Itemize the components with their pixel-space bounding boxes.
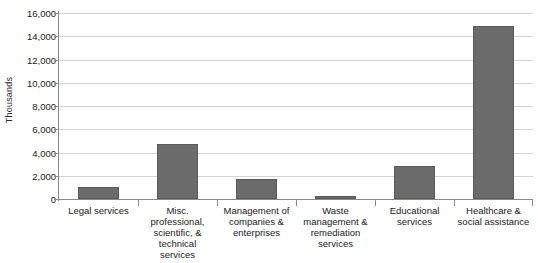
y-tickmark [54, 60, 59, 61]
y-axis-title-text: Thousands [4, 77, 14, 123]
y-tick-label: 4,000 [16, 147, 56, 158]
x-axis-label-line: technical [140, 238, 215, 249]
x-axis-label-line: Waste [298, 205, 373, 216]
y-tick-label: 10,000 [16, 77, 56, 88]
x-axis-label-line: Educational [377, 205, 452, 216]
x-axis-category-label: Misc.professional,scientific, &technical… [140, 205, 215, 260]
bar [78, 187, 119, 199]
x-axis-label-line: social assistance [456, 216, 531, 227]
y-tick-label: 16,000 [16, 8, 56, 19]
y-axis-tick-labels: 02,0004,0006,0008,00010,00012,00014,0001… [16, 0, 56, 212]
x-axis-label-line: companies & [219, 216, 294, 227]
x-axis-label-line: management & [298, 216, 373, 227]
y-tick-label: 8,000 [16, 101, 56, 112]
y-tickmark [54, 129, 59, 130]
x-axis-label-line: remediation [298, 227, 373, 238]
plot-area [59, 13, 533, 199]
bars-layer [59, 13, 533, 199]
y-tick-label: 0 [16, 194, 56, 205]
x-axis-label-line: Healthcare & [456, 205, 531, 216]
y-tick-label: 12,000 [16, 54, 56, 65]
bar [157, 144, 198, 199]
y-tickmark [54, 176, 59, 177]
y-tickmark [54, 83, 59, 84]
bar [473, 26, 514, 199]
x-axis-label-line: enterprises [219, 227, 294, 238]
bar [236, 179, 277, 199]
x-axis-label-line: Legal services [61, 205, 136, 216]
y-tickmark [54, 153, 59, 154]
x-axis-label-line: Management of [219, 205, 294, 216]
bar [394, 166, 435, 199]
x-axis-category-label: Management ofcompanies &enterprises [219, 205, 294, 238]
y-tickmark [54, 36, 59, 37]
y-tickmark [54, 13, 59, 14]
x-axis-category-label: Healthcare &social assistance [456, 205, 531, 227]
bar-chart: Thousands 02,0004,0006,0008,00010,00012,… [0, 0, 538, 263]
y-tickmark [54, 106, 59, 107]
x-axis-category-labels: Legal servicesMisc.professional,scientif… [59, 205, 533, 263]
x-axis-label-line: services [140, 249, 215, 260]
x-axis-category-label: Legal services [61, 205, 136, 216]
x-axis-label-line: professional, [140, 216, 215, 227]
x-axis-category-label: Wastemanagement &remediationservices [298, 205, 373, 249]
y-tick-label: 6,000 [16, 124, 56, 135]
x-axis-label-line: scientific, & [140, 227, 215, 238]
x-axis-label-line: services [377, 216, 452, 227]
y-tickmark [54, 199, 59, 200]
y-tick-label: 2,000 [16, 170, 56, 181]
x-axis-label-line: Misc. [140, 205, 215, 216]
y-tick-label: 14,000 [16, 31, 56, 42]
x-axis-category-label: Educationalservices [377, 205, 452, 227]
x-axis-label-line: services [298, 238, 373, 249]
